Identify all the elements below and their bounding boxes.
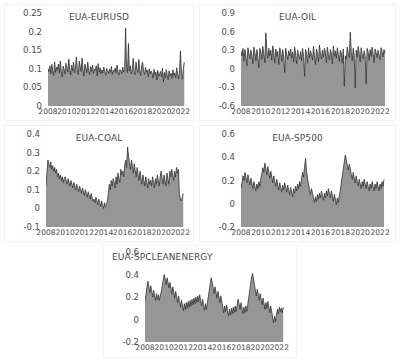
y-tick-label: 0.2: [26, 166, 40, 176]
x-tick-label: 2014: [94, 228, 113, 237]
y-tick-label: 0.3: [221, 45, 235, 55]
y-tick-label: 0.4: [125, 270, 139, 280]
x-tick-label: 2016: [311, 228, 330, 237]
x-tick-label: 2012: [174, 343, 193, 352]
y-tick-label: 0: [134, 315, 139, 325]
x-tick-label: 2012: [76, 107, 95, 116]
x-axis-ticks-eua-eurusd: 20082010201220142016201820202022: [48, 107, 189, 119]
x-tick-label: 2020: [351, 107, 370, 116]
y-tick-label: 0.9: [221, 8, 235, 18]
x-axis-ticks-eua-spcleanenergy: 20082010201220142016201820202022: [145, 343, 288, 355]
x-tick-label: 2022: [370, 107, 389, 116]
x-tick-label: 2018: [132, 228, 151, 237]
x-axis-ticks-eua-sp500: 20082010201220142016201820202022: [241, 228, 389, 240]
plot-area-eua-sp500: [241, 134, 389, 227]
x-tick-label: 2016: [113, 228, 132, 237]
x-tick-label: 2020: [351, 228, 370, 237]
x-axis-ticks-eua-oil: 20082010201220142016201820202022: [241, 107, 389, 119]
x-tick-label: 2018: [133, 107, 152, 116]
y-axis-ticks-eua-spcleanenergy: -0.200.20.40.6: [104, 252, 142, 342]
x-tick-label: 2008: [135, 343, 154, 352]
y-tick-label: 0.2: [221, 176, 235, 186]
panel-eua-spcleanenergy: EUA-SPCLEANENERGY -0.200.20.40.6 2008201…: [103, 245, 297, 358]
panel-eua-oil: EUA-OIL -0.6-0.300.30.60.9 2008201020122…: [199, 4, 396, 121]
series-eua-eurusd: [48, 13, 189, 106]
x-tick-label: 2016: [114, 107, 133, 116]
y-tick-label: 0.05: [23, 82, 42, 92]
series-eua-oil: [241, 13, 389, 106]
series-eua-sp500: [241, 134, 389, 227]
y-axis-ticks-eua-sp500: -0.200.20.40.6: [200, 134, 238, 227]
y-axis-ticks-eua-coal: -0.100.10.20.30.4: [5, 134, 43, 227]
panel-eua-eurusd: EUA-EURUSD 00.050.10.150.20.25 200820102…: [4, 4, 194, 121]
plot-area-eua-spcleanenergy: [145, 252, 288, 342]
y-tick-label: 0.6: [221, 27, 235, 37]
x-tick-label: 2010: [251, 228, 270, 237]
series-eua-spcleanenergy: [145, 252, 288, 342]
x-tick-label: 2010: [251, 107, 270, 116]
x-tick-label: 2010: [155, 343, 174, 352]
x-tick-label: 2020: [250, 343, 269, 352]
x-tick-label: 2016: [212, 343, 231, 352]
x-tick-label: 2012: [75, 228, 94, 237]
x-tick-label: 2018: [331, 107, 350, 116]
x-tick-label: 2012: [271, 228, 290, 237]
panel-eua-sp500: EUA-SP500 -0.200.20.40.6 200820102012201…: [199, 125, 396, 242]
y-tick-label: 0.6: [125, 247, 139, 257]
y-tick-label: 0.6: [221, 129, 235, 139]
x-tick-label: 2022: [171, 228, 190, 237]
y-tick-label: 0.1: [28, 64, 42, 74]
y-tick-label: 0: [230, 199, 235, 209]
x-tick-label: 2010: [56, 228, 75, 237]
x-axis-ticks-eua-coal: 20082010201220142016201820202022: [46, 228, 189, 240]
multi-panel-figure: EUA-EURUSD 00.050.10.150.20.25 200820102…: [0, 0, 400, 362]
x-tick-label: 2020: [152, 107, 171, 116]
x-tick-label: 2022: [270, 343, 289, 352]
x-tick-label: 2020: [151, 228, 170, 237]
y-tick-label: 0.1: [26, 185, 40, 195]
y-tick-label: 0.4: [221, 152, 235, 162]
y-tick-label: 0.4: [26, 129, 40, 139]
plot-area-eua-coal: [46, 134, 189, 227]
x-tick-label: 2018: [231, 343, 250, 352]
x-tick-label: 2014: [291, 107, 310, 116]
x-tick-label: 2018: [331, 228, 350, 237]
x-tick-label: 2012: [271, 107, 290, 116]
x-tick-label: 2016: [311, 107, 330, 116]
plot-area-eua-eurusd: [48, 13, 189, 106]
x-tick-label: 2008: [38, 107, 57, 116]
y-tick-label: 0.25: [23, 8, 42, 18]
x-tick-label: 2014: [291, 228, 310, 237]
series-eua-coal: [46, 134, 189, 227]
x-tick-label: 2008: [231, 228, 250, 237]
plot-area-eua-oil: [241, 13, 389, 106]
x-tick-label: 2014: [193, 343, 212, 352]
x-tick-label: 2008: [231, 107, 250, 116]
y-axis-ticks-eua-oil: -0.6-0.300.30.60.9: [200, 13, 238, 106]
y-tick-label: -0.3: [218, 82, 235, 92]
y-tick-label: 0.2: [28, 27, 42, 37]
panel-eua-coal: EUA-COAL -0.100.10.20.30.4 2008201020122…: [4, 125, 194, 242]
x-tick-label: 2022: [171, 107, 190, 116]
y-tick-label: 0: [35, 203, 40, 213]
x-tick-label: 2014: [95, 107, 114, 116]
y-tick-label: 0.15: [23, 45, 42, 55]
y-tick-label: 0.2: [125, 292, 139, 302]
x-tick-label: 2022: [370, 228, 389, 237]
y-tick-label: 0.3: [26, 148, 40, 158]
y-axis-ticks-eua-eurusd: 00.050.10.150.20.25: [5, 13, 45, 106]
x-tick-label: 2010: [57, 107, 76, 116]
x-tick-label: 2008: [36, 228, 55, 237]
y-tick-label: 0: [230, 64, 235, 74]
